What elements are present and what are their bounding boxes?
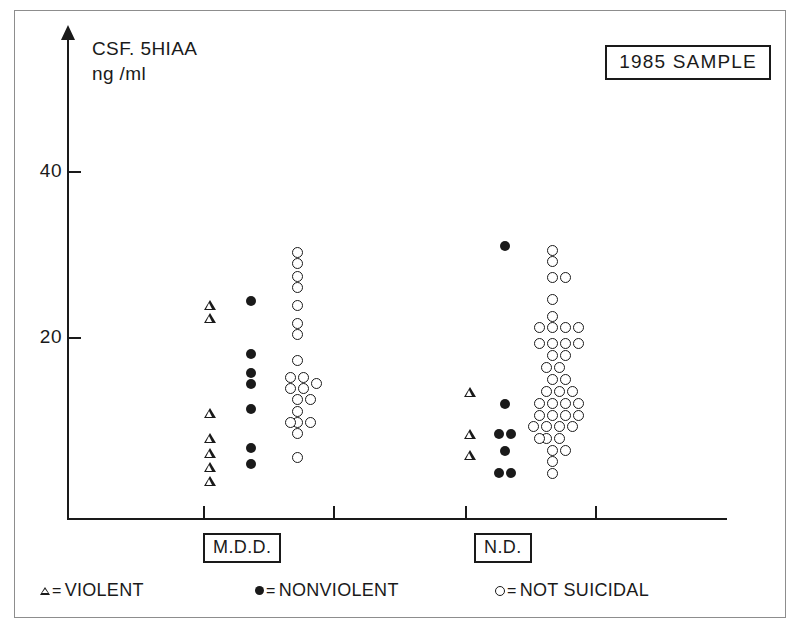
y-tick-label-20: 20 [18,326,62,348]
data-point-mdd-not-suicidal [292,258,303,269]
data-point-nd-not-suicidal [547,468,558,479]
data-point-mdd-violent [204,300,216,310]
y-tick-20 [69,337,81,339]
data-point-nd-not-suicidal [547,445,558,456]
data-point-mdd-nonviolent [246,368,256,378]
data-point-mdd-not-suicidal [292,318,303,329]
data-point-nd-not-suicidal [567,386,578,397]
data-point-nd-not-suicidal [534,322,545,333]
legend-equals: = [266,582,276,600]
data-point-mdd-not-suicidal [298,372,309,383]
data-point-mdd-not-suicidal [292,355,303,366]
legend-item-not-suicidal: = NOT SUICIDAL [495,580,649,601]
sample-label-box: 1985 SAMPLE [605,45,771,80]
triangle-open-icon [40,587,50,595]
data-point-nd-not-suicidal [547,322,558,333]
data-point-nd-not-suicidal [560,272,571,283]
data-point-nd-not-suicidal [547,338,558,349]
data-point-nd-not-suicidal [560,374,571,385]
data-point-mdd-not-suicidal [285,372,296,383]
data-point-nd-not-suicidal [573,398,584,409]
x-axis-line [67,518,727,520]
plot-area: 40 20 CSF. 5HIAA ng /ml 1985 SAMPLE M.D.… [0,0,803,631]
data-point-mdd-nonviolent [246,404,256,414]
legend-item-violent: = VIOLENT [40,580,144,601]
scatter-plot-figure: 40 20 CSF. 5HIAA ng /ml 1985 SAMPLE M.D.… [0,0,803,631]
data-point-nd-not-suicidal [541,362,552,373]
data-point-nd-not-suicidal [534,433,545,444]
data-point-mdd-violent [204,313,216,323]
y-axis-title: CSF. 5HIAA ng /ml [92,36,197,86]
data-point-nd-not-suicidal [541,421,552,432]
data-point-nd-not-suicidal [573,410,584,421]
data-point-nd-nonviolent [506,468,516,478]
x-tick-mdd-left [203,506,205,520]
data-point-mdd-not-suicidal [292,428,303,439]
data-point-nd-not-suicidal [560,322,571,333]
y-axis-title-line1: CSF. 5HIAA [92,38,197,59]
data-point-nd-not-suicidal [534,410,545,421]
data-point-nd-not-suicidal [547,245,558,256]
legend-equals: = [507,582,517,600]
y-tick-40 [69,171,81,173]
data-point-nd-violent [464,450,476,460]
data-point-mdd-not-suicidal [292,406,303,417]
circle-filled-icon [255,586,264,595]
data-point-nd-not-suicidal [547,256,558,267]
data-point-mdd-not-suicidal [292,329,303,340]
data-point-mdd-not-suicidal [292,247,303,258]
data-point-mdd-nonviolent [246,349,256,359]
data-point-nd-not-suicidal [547,456,558,467]
data-point-mdd-not-suicidal [285,417,296,428]
data-point-nd-not-suicidal [547,311,558,322]
x-tick-nd-right [595,506,597,520]
data-point-nd-not-suicidal [554,386,565,397]
data-point-mdd-not-suicidal [311,378,322,389]
legend-item-nonviolent: = NONVIOLENT [255,580,399,601]
data-point-nd-not-suicidal [547,374,558,385]
data-point-nd-nonviolent [500,241,510,251]
data-point-mdd-not-suicidal [298,383,309,394]
x-tick-nd-left [465,506,467,520]
data-point-nd-nonviolent [494,468,504,478]
data-point-nd-not-suicidal [560,398,571,409]
data-point-mdd-not-suicidal [292,300,303,311]
data-point-nd-not-suicidal [560,350,571,361]
data-point-nd-not-suicidal [560,410,571,421]
circle-open-icon [495,586,505,596]
data-point-mdd-violent [204,433,216,443]
data-point-mdd-not-suicidal [285,383,296,394]
data-point-nd-not-suicidal [560,338,571,349]
data-point-mdd-not-suicidal [305,394,316,405]
data-point-nd-violent [464,429,476,439]
data-point-nd-not-suicidal [534,398,545,409]
data-point-mdd-violent [204,462,216,472]
data-point-nd-violent [464,387,476,397]
data-point-mdd-nonviolent [246,443,256,453]
data-point-nd-not-suicidal [547,398,558,409]
data-point-mdd-not-suicidal [292,282,303,293]
data-point-mdd-not-suicidal [292,452,303,463]
data-point-nd-not-suicidal [547,294,558,305]
data-point-nd-not-suicidal [534,338,545,349]
data-point-nd-not-suicidal [547,350,558,361]
data-point-nd-not-suicidal [547,272,558,283]
group-label-nd: N.D. [474,533,532,563]
data-point-nd-not-suicidal [541,386,552,397]
legend-label-nonviolent: NONVIOLENT [279,580,399,601]
data-point-mdd-not-suicidal [292,394,303,405]
data-point-mdd-violent [204,448,216,458]
data-point-mdd-not-suicidal [305,417,316,428]
legend-equals: = [52,582,62,600]
y-axis-line [67,36,69,520]
y-tick-label-40: 40 [18,160,62,182]
legend-label-violent: VIOLENT [65,580,144,601]
data-point-mdd-nonviolent [246,459,256,469]
data-point-nd-nonviolent [500,399,510,409]
data-point-nd-not-suicidal [528,421,539,432]
group-label-mdd: M.D.D. [203,533,281,563]
data-point-nd-not-suicidal [560,445,571,456]
data-point-mdd-violent [204,408,216,418]
data-point-nd-not-suicidal [573,338,584,349]
x-tick-mdd-right [333,506,335,520]
